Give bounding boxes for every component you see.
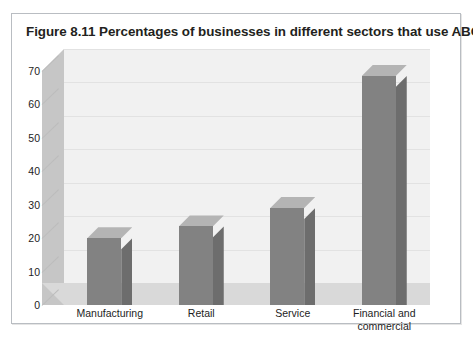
y-tick-label: 50: [14, 133, 40, 143]
y-tick-label: 0: [14, 300, 40, 310]
y-tick-label: 40: [14, 166, 40, 176]
gridline: [64, 49, 430, 50]
x-tick-label: Financial and commercial: [329, 307, 439, 332]
y-tick-label: 10: [14, 267, 40, 277]
figure-title: Figure 8.11 Percentages of businesses in…: [26, 24, 452, 39]
bar-side-face: [213, 226, 224, 305]
bar-side-face: [121, 238, 132, 305]
bar-front-face: [362, 76, 396, 305]
bar-chart: 010203040506070 % ManufacturingRetailSer…: [29, 49, 443, 317]
bar-side-face: [396, 76, 407, 305]
y-tick-label: 20: [14, 233, 40, 243]
y-axis-ticks: 010203040506070: [10, 49, 40, 305]
y-tick-label: 30: [14, 200, 40, 210]
chart-left-wall: [42, 49, 64, 305]
bar: [87, 238, 121, 305]
bar: [270, 208, 304, 305]
bar-front-face: [270, 208, 304, 305]
y-tick-label: 70: [14, 66, 40, 76]
y-tick-label: 60: [14, 99, 40, 109]
bar: [179, 226, 213, 305]
bar: [362, 76, 396, 305]
bar-front-face: [179, 226, 213, 305]
bar-side-face: [304, 208, 315, 305]
bar-front-face: [87, 238, 121, 305]
figure-panel: Figure 8.11 Percentages of businesses in…: [11, 13, 461, 324]
